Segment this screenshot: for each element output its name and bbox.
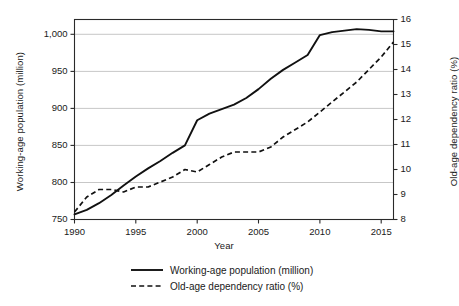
y-axis-right-tick-label: 9 [401, 188, 443, 199]
x-axis-tick-label: 2005 [236, 226, 282, 237]
series-line-working-age-population [75, 29, 394, 214]
y-axis-left-tick-label: 750 [26, 213, 68, 224]
y-axis-left-tick-label: 950 [26, 65, 68, 76]
legend-line-swatch [131, 265, 163, 275]
x-axis-tick-label: 2000 [174, 226, 220, 237]
y-axis-right-tick-label: 16 [401, 13, 443, 24]
y-axis-right-tick-label: 11 [401, 138, 443, 149]
legend-label: Working-age population (million) [170, 265, 313, 276]
y-axis-left-tick-label: 900 [26, 102, 68, 113]
y-axis-right-tick-label: 10 [401, 163, 443, 174]
x-axis-tick-label: 1995 [113, 226, 159, 237]
legend-line-swatch [131, 281, 163, 291]
x-axis-tick-label: 2015 [358, 226, 404, 237]
y-axis-right-tick-label: 12 [401, 113, 443, 124]
y-axis-right-tick-label: 13 [401, 88, 443, 99]
y-axis-left-tick-label: 850 [26, 139, 68, 150]
y-axis-right-title: Old-age dependency ratio (%) [448, 17, 459, 227]
legend-item: Old-age dependency ratio (%) [0, 278, 448, 294]
tick-marks [71, 20, 398, 224]
x-axis-tick-label: 1990 [52, 226, 98, 237]
y-axis-left-tick-label: 800 [26, 176, 68, 187]
gridlines [75, 34, 394, 219]
legend-item: Working-age population (million) [0, 262, 448, 278]
y-axis-right-tick-label: 15 [401, 38, 443, 49]
legend-label: Old-age dependency ratio (%) [170, 281, 303, 292]
chart-legend: Working-age population (million)Old-age … [0, 262, 448, 294]
y-axis-right-tick-label: 14 [401, 63, 443, 74]
x-axis-tick-label: 2010 [297, 226, 343, 237]
plot-frame [75, 20, 394, 220]
y-axis-left-tick-label: 1,000 [26, 28, 68, 39]
y-axis-right-tick-label: 8 [401, 213, 443, 224]
